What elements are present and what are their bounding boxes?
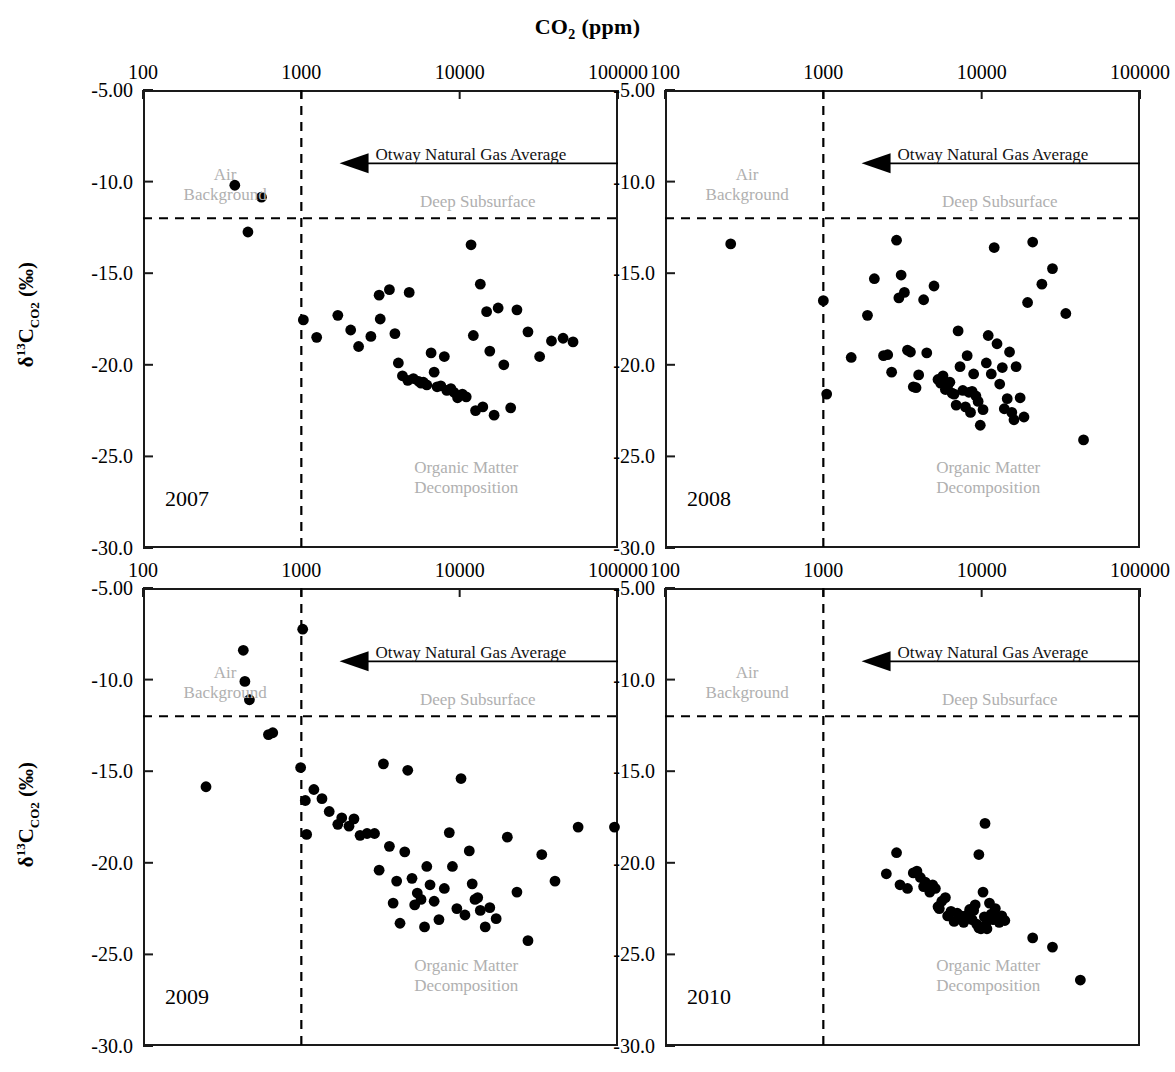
annotation-organic-line2: Decomposition	[936, 478, 1040, 498]
y-tick-label: -30.0	[583, 537, 655, 560]
y-tick-label: -20.0	[61, 851, 133, 874]
annotation-air-background-line1: Air	[184, 663, 267, 683]
data-point	[345, 325, 356, 336]
data-point	[881, 868, 892, 879]
annotation-air-background-line1: Air	[706, 165, 789, 185]
data-point	[1078, 435, 1089, 446]
data-point	[297, 624, 308, 635]
data-point	[994, 379, 1005, 390]
data-point	[439, 883, 450, 894]
data-point	[267, 727, 278, 738]
data-point	[505, 402, 516, 413]
otway-arrow-head-icon	[862, 651, 891, 671]
data-point	[930, 883, 941, 894]
data-point	[1047, 263, 1058, 274]
annotation-otway-natural-gas-average: Otway Natural Gas Average	[376, 643, 567, 663]
data-point	[978, 404, 989, 415]
data-point	[921, 347, 932, 358]
data-point	[944, 377, 955, 388]
data-point	[308, 784, 319, 795]
annotation-air-background-line2: Background	[706, 185, 789, 205]
data-point	[460, 910, 471, 921]
annotation-deep-subsurface: Deep Subsurface	[420, 690, 536, 710]
data-point	[419, 922, 430, 933]
data-point	[896, 270, 907, 281]
data-point	[484, 902, 495, 913]
otway-arrow-head-icon	[862, 153, 891, 173]
annotation-organic-line2: Decomposition	[414, 976, 518, 996]
data-point	[1002, 393, 1013, 404]
data-point	[1047, 942, 1058, 953]
annotation-otway-natural-gas-average: Otway Natural Gas Average	[898, 643, 1089, 663]
data-point	[573, 822, 584, 833]
x-tick-label: 100000	[1110, 559, 1170, 582]
data-point	[456, 773, 467, 784]
data-point	[882, 349, 893, 360]
data-point	[332, 310, 343, 321]
data-point	[989, 242, 1000, 253]
annotation-deep-subsurface: Deep Subsurface	[420, 192, 536, 212]
y-axis-label-top: δ13CCO2 (‰)	[13, 225, 42, 405]
otway-arrow-head-icon	[340, 651, 369, 671]
y-label-c: C	[14, 828, 38, 843]
data-point	[1009, 414, 1020, 425]
y-tick-label: -20.0	[583, 851, 655, 874]
data-point	[534, 351, 545, 362]
data-point	[393, 358, 404, 369]
data-point	[375, 314, 386, 325]
data-point	[1015, 392, 1026, 403]
y-tick-label: -30.0	[61, 537, 133, 560]
data-point	[421, 861, 432, 872]
y-label-superscript: 13	[13, 343, 28, 356]
y-tick-label: -20.0	[61, 353, 133, 376]
figure-title-subscript: 2	[568, 27, 575, 42]
data-point	[725, 238, 736, 249]
data-point	[243, 227, 254, 238]
data-point	[891, 847, 902, 858]
data-point	[447, 861, 458, 872]
annotation-organic-matter-decomposition: Organic MatterDecomposition	[414, 458, 518, 498]
x-tick-label: 1000	[281, 61, 321, 84]
data-point	[391, 876, 402, 887]
x-tick-label: 10000	[435, 61, 485, 84]
data-point	[201, 781, 212, 792]
panel-year-label: 2009	[165, 984, 209, 1010]
data-point	[986, 369, 997, 380]
data-point	[973, 849, 984, 860]
otway-arrow-head-icon	[340, 153, 369, 173]
data-point	[1060, 308, 1071, 319]
data-point	[295, 762, 306, 773]
annotation-deep-subsurface: Deep Subsurface	[942, 690, 1058, 710]
annotation-air-background: AirBackground	[706, 165, 789, 205]
data-point	[384, 841, 395, 852]
y-tick-label: -20.0	[583, 353, 655, 376]
data-point	[498, 359, 509, 370]
data-point	[965, 407, 976, 418]
data-point	[902, 883, 913, 894]
data-point	[980, 818, 991, 829]
data-point	[317, 793, 328, 804]
data-point	[395, 918, 406, 929]
data-point	[421, 380, 432, 391]
data-point	[955, 361, 966, 372]
data-point	[523, 935, 534, 946]
data-point	[962, 350, 973, 361]
data-point	[886, 367, 897, 378]
data-point	[349, 813, 360, 824]
data-point	[1011, 361, 1022, 372]
data-point	[523, 326, 534, 337]
data-point	[300, 795, 311, 806]
data-point	[484, 346, 495, 357]
figure-title-units: (ppm)	[576, 14, 641, 39]
y-tick-label: -5.00	[583, 577, 655, 600]
data-point	[464, 845, 475, 856]
y-tick-label: -5.00	[61, 79, 133, 102]
data-point	[374, 290, 385, 301]
data-point	[905, 347, 916, 358]
y-axis-label-bottom: δ13CCO2 (‰)	[13, 725, 42, 905]
data-point	[846, 352, 857, 363]
y-tick-label: -5.00	[583, 79, 655, 102]
data-point	[992, 338, 1003, 349]
data-point	[298, 315, 309, 326]
y-label-subscript: CO2	[27, 802, 42, 828]
